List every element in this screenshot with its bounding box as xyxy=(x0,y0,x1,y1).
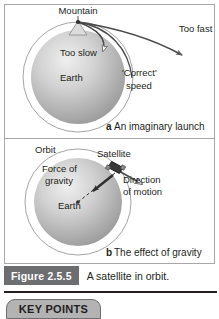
label-satellite: Satellite xyxy=(97,148,131,159)
panel-b-caption-text: The effect of gravity xyxy=(114,247,202,258)
label-too-fast: Too fast xyxy=(179,23,213,34)
imaginary-launch-diagram: Mountain Too fast Too slow Earth 'Correc… xyxy=(5,5,216,139)
label-force-line1: Force of xyxy=(42,163,77,174)
panel-b-caption-letter: b xyxy=(106,247,112,258)
figure-caption: A satellite in orbit. xyxy=(79,266,169,285)
effect-of-gravity-diagram: Orbit Satellite Force of gravity Directi… xyxy=(5,139,216,265)
key-points-label: KEY POINTS xyxy=(19,303,88,315)
label-earth: Earth xyxy=(60,72,83,83)
label-orbit: Orbit xyxy=(35,144,56,155)
label-earth: Earth xyxy=(58,200,81,211)
diagram-panel-a: Mountain Too fast Too slow Earth 'Correc… xyxy=(4,4,215,138)
panel-a-caption-letter: a xyxy=(106,121,112,132)
panel-a-caption-text: An imaginary launch xyxy=(114,121,205,132)
label-mountain: Mountain xyxy=(58,5,97,16)
diagram-panel-b: Orbit Satellite Force of gravity Directi… xyxy=(4,138,215,264)
label-correct-speed-line1: 'Correct' xyxy=(122,67,157,78)
label-direction-line1: Direction xyxy=(123,174,161,185)
figure-container: Mountain Too fast Too slow Earth 'Correc… xyxy=(4,4,215,285)
label-too-slow: Too slow xyxy=(60,47,97,58)
figure-number-label: Figure 2.5.5 xyxy=(11,270,72,282)
figure-number-tag: Figure 2.5.5 xyxy=(4,266,79,285)
label-correct-speed-line2: speed xyxy=(126,80,152,91)
section-divider xyxy=(4,291,217,293)
key-points-tab: KEY POINTS xyxy=(6,299,101,319)
figure-caption-row: Figure 2.5.5 A satellite in orbit. xyxy=(4,266,215,285)
label-direction-line2: of motion xyxy=(123,186,162,197)
label-force-line2: gravity xyxy=(45,175,73,186)
